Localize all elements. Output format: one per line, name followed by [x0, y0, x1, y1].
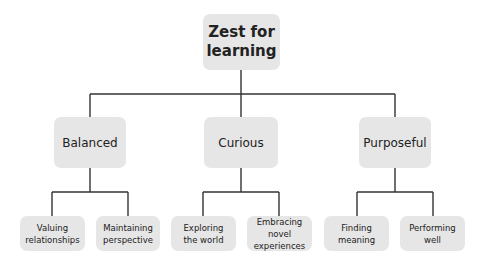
leaf-maintaining-perspective: Maintaining perspective [96, 216, 160, 251]
leaf-label-line1: Finding [338, 222, 375, 234]
node-balanced-label: Balanced [62, 136, 117, 150]
node-balanced: Balanced [54, 117, 126, 168]
node-curious: Curious [204, 117, 278, 168]
leaf-label-line1: Exploring [183, 222, 223, 234]
leaf-valuing-relationships: Valuing relationships [20, 216, 85, 251]
leaf-label-line2: relationships [25, 234, 79, 246]
leaf-label-line2: perspective [103, 234, 153, 246]
leaf-label-line2: the world [183, 234, 223, 246]
leaf-exploring-the-world: Exploring the world [171, 216, 236, 251]
leaf-label-line2: well [409, 234, 456, 246]
tree-diagram: Zest for learning Balanced Curious Purpo… [0, 0, 484, 263]
node-purposeful: Purposeful [359, 117, 431, 168]
root-label-line1: Zest for [206, 23, 276, 42]
node-purposeful-label: Purposeful [363, 136, 426, 150]
leaf-label-line2: experiences [247, 240, 312, 252]
root-label-line2: learning [206, 42, 276, 61]
leaf-label-line1: Valuing [25, 222, 79, 234]
leaf-label-line1: Maintaining [103, 222, 153, 234]
leaf-label-line2: meaning [338, 234, 375, 246]
leaf-finding-meaning: Finding meaning [324, 216, 389, 251]
leaf-performing-well: Performing well [400, 216, 465, 251]
node-curious-label: Curious [218, 136, 263, 150]
root-node-zest-for-learning: Zest for learning [203, 14, 280, 70]
leaf-embracing-novel-experiences: Embracing novel experiences [247, 216, 312, 251]
leaf-label-line1: Embracing novel [247, 216, 312, 240]
leaf-label-line1: Performing [409, 222, 456, 234]
